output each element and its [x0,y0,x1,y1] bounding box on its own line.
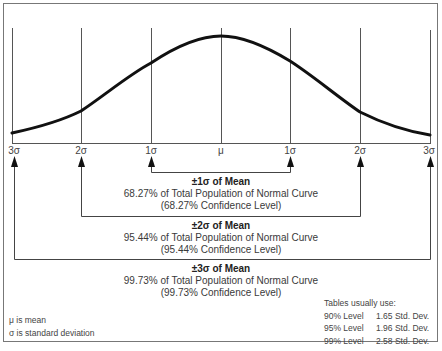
range-3-line1: 99.73% of Total Population of Normal Cur… [124,275,318,287]
table-level: 99% Level [324,335,376,348]
range-1-heading: ±1σ of Mean [192,176,250,188]
sigma-gridlines [13,28,431,143]
range-3-heading: ±3σ of Mean [192,263,250,275]
confidence-table: Tables usually use: 90% Level 1.65 Std. … [324,297,429,347]
arrow-heads [11,156,434,167]
arrow-up-icon [427,156,434,167]
one-sigma-bracket [152,160,291,173]
table-value: 1.65 Std. Dev. [376,310,429,323]
table-row: 90% Level 1.65 Std. Dev. [324,310,429,323]
tick-pos-1-sigma: 1σ [284,145,296,157]
range-2-heading: ±2σ of Mean [192,220,250,232]
legend-std-dev: σ is standard deviation [9,327,95,340]
range-2-line1: 95.44% of Total Population of Normal Cur… [124,232,318,244]
tick-neg-3-sigma: 3σ [8,145,20,157]
arrow-up-icon [148,156,155,167]
range-3-line2: (99.73% Confidence Level) [161,287,282,299]
arrow-up-icon [11,156,18,167]
table-row: 95% Level 1.96 Std. Dev. [324,322,429,335]
legend-mean: μ is mean [9,314,95,327]
arrow-up-icon [357,156,364,167]
table-level: 95% Level [324,322,376,335]
symbol-legend: μ is mean σ is standard deviation [9,314,95,339]
tick-neg-1-sigma: 1σ [145,145,157,157]
table-level: 90% Level [324,310,376,323]
arrow-up-icon [287,156,294,167]
table-value: 2.58 Std. Dev. [376,335,429,348]
tick-pos-2-sigma: 2σ [354,145,366,157]
table-value: 1.96 Std. Dev. [376,322,429,335]
range-2-line2: (95.44% Confidence Level) [161,244,282,256]
tick-neg-2-sigma: 2σ [75,145,87,157]
range-1-line2: (68.27% Confidence Level) [161,200,282,212]
tick-mean: μ [218,145,224,157]
tick-pos-3-sigma: 3σ [423,145,435,157]
arrow-up-icon [78,156,85,167]
range-1-line1: 68.27% of Total Population of Normal Cur… [124,188,318,200]
table-row: 99% Level 2.58 Std. Dev. [324,335,429,348]
table-heading: Tables usually use: [324,297,429,310]
